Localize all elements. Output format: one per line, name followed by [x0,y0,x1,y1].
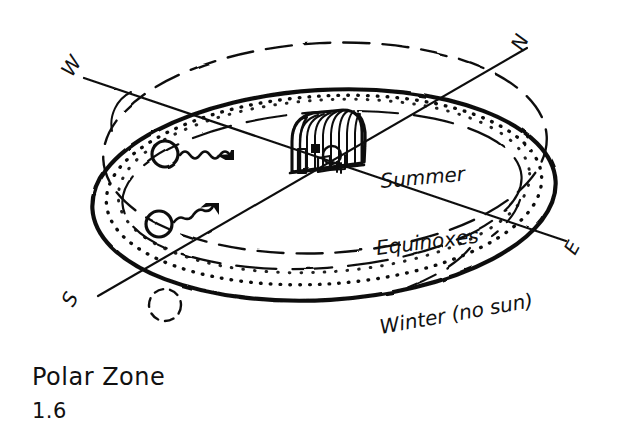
sun-below-horizon-dashed [149,289,181,321]
quonset-hut-station [290,110,365,173]
sun-above-horizon-1 [152,141,178,167]
sun-ray-arrow-1 [180,152,230,159]
polar-zone-figure: W N E S Summer Equinoxes Winter (no sun)… [0,0,626,426]
compass-label-east: E [559,237,584,258]
figure-number: 1.6 [32,399,67,423]
compass-label-south: S [56,288,83,311]
figure-title: Polar Zone [32,363,165,391]
sun-ray-arrow-2 [172,205,215,222]
label-summer: Summer [379,162,467,193]
compass-label-west: W [56,50,87,81]
label-winter-no-sun: Winter (no sun) [378,288,535,339]
diagram-canvas: W N E S Summer Equinoxes Winter (no sun)… [0,0,626,426]
compass-label-north: N [506,30,534,54]
